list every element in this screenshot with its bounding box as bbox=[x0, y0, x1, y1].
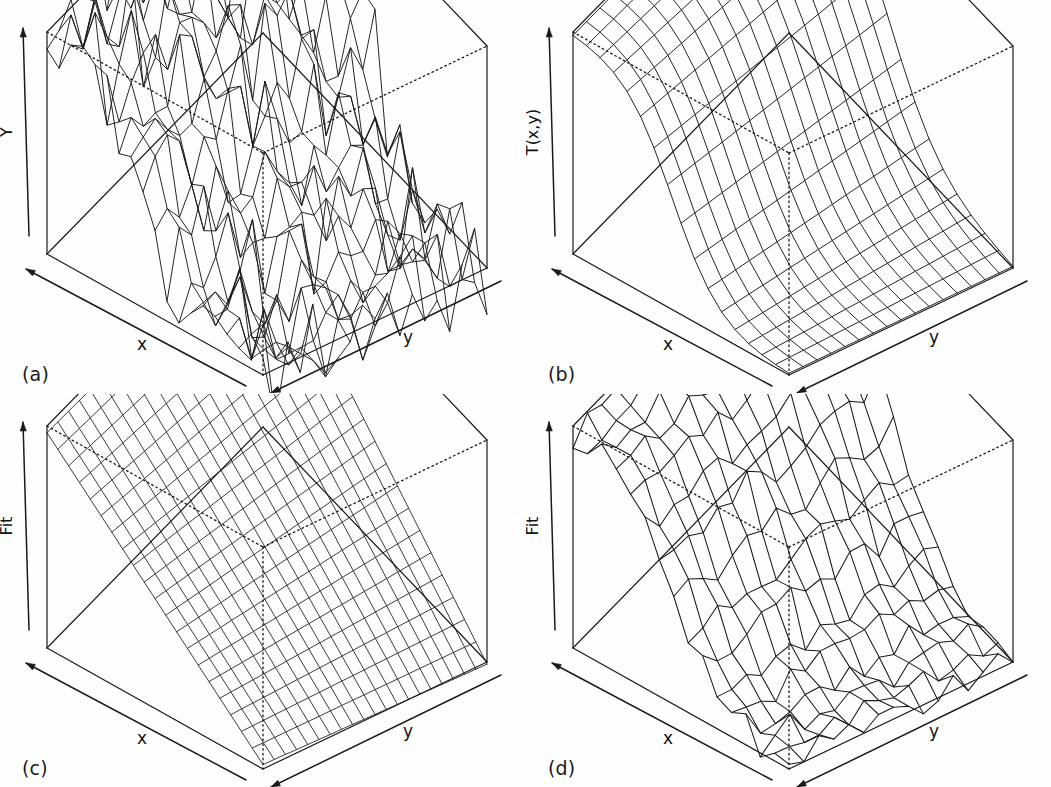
mesh-line-u bbox=[789, 394, 1013, 662]
box-edge-floor-front-right bbox=[789, 662, 1013, 769]
mesh-line-u bbox=[71, 0, 288, 359]
panel-b-tag: (b) bbox=[548, 363, 576, 385]
panel-a-tag: (a) bbox=[22, 363, 49, 385]
z-axis-label: Fit bbox=[0, 517, 16, 536]
z-axis-line bbox=[23, 28, 29, 236]
z-axis-arrowhead bbox=[20, 422, 26, 431]
mesh-line-v bbox=[789, 266, 1013, 373]
mesh-line-v bbox=[762, 233, 985, 354]
mesh-line-v bbox=[600, 0, 817, 58]
z-axis-line bbox=[23, 422, 29, 630]
box-edge-top-front-right-hidden bbox=[789, 46, 1013, 153]
mesh-line-v bbox=[220, 575, 442, 698]
y-axis-line bbox=[797, 281, 1027, 393]
x-axis-arrowhead bbox=[552, 663, 561, 670]
mesh-line-v bbox=[717, 547, 938, 697]
mesh-line-u bbox=[681, 0, 901, 320]
box-edge-floor-front-left bbox=[47, 254, 263, 375]
mesh-line-v bbox=[722, 169, 944, 312]
surface-mesh bbox=[47, 0, 487, 393]
mesh-line-v bbox=[645, 394, 864, 526]
x-axis-label: x bbox=[663, 334, 673, 354]
x-axis-line bbox=[26, 269, 246, 386]
z-axis-label: T(x,y) bbox=[526, 109, 542, 156]
panel-c-tag: (c) bbox=[22, 757, 48, 779]
mesh-line-u bbox=[227, 0, 450, 332]
z-axis-line bbox=[549, 422, 555, 630]
y-axis-arrowhead bbox=[797, 386, 806, 393]
y-axis-arrowhead bbox=[797, 780, 806, 787]
mesh-line-v bbox=[252, 642, 476, 748]
x-axis-label: x bbox=[137, 334, 147, 354]
box-edge-top-back-right bbox=[263, 0, 487, 46]
mesh-line-v bbox=[131, 0, 350, 157]
mesh-line-v bbox=[708, 139, 929, 289]
panel-a-plot: xyY bbox=[0, 0, 525, 393]
panel-d-tag: (d) bbox=[548, 757, 576, 779]
z-axis-label: Y bbox=[0, 127, 16, 138]
mesh-line-v bbox=[123, 394, 342, 549]
box-edge-top-back-right bbox=[263, 394, 487, 440]
box-edge-top-front-left-hidden bbox=[47, 32, 263, 153]
mesh-line-u bbox=[573, 444, 789, 764]
box-edge-top-front-left-hidden bbox=[573, 426, 789, 547]
mesh-line-v bbox=[654, 0, 873, 148]
x-axis-label: x bbox=[663, 728, 673, 748]
mesh-line-v bbox=[203, 188, 425, 324]
panel-b: xyT(x,y) (b) bbox=[526, 0, 1051, 393]
mesh-line-u bbox=[241, 394, 464, 674]
mesh-line-u bbox=[746, 394, 968, 691]
x-axis-arrowhead bbox=[26, 663, 35, 670]
mesh-line-u bbox=[760, 394, 983, 672]
box-edge-top-back-right bbox=[789, 394, 1013, 440]
mesh-line-v bbox=[155, 9, 375, 230]
z-axis-line bbox=[549, 28, 555, 236]
mesh-line-u bbox=[107, 0, 325, 373]
mesh-line-u bbox=[155, 394, 375, 714]
mesh-line-v bbox=[241, 620, 464, 732]
mesh-line-v bbox=[789, 654, 1013, 765]
mesh-line-v bbox=[602, 394, 819, 448]
mesh-line-u bbox=[123, 394, 342, 729]
mesh-line-v bbox=[187, 508, 408, 648]
mesh-line-v bbox=[191, 132, 412, 326]
panel-c-plot: xyFit bbox=[0, 394, 525, 787]
box-edge-floor-back-left bbox=[47, 427, 263, 648]
z-axis-label: Fit bbox=[526, 517, 542, 536]
mesh-line-u bbox=[708, 0, 929, 306]
figure-container: xyY (a) xyT(x,y) (b) xyFit (c) xyFit (d) bbox=[0, 0, 1051, 787]
mesh-line-u bbox=[602, 405, 819, 743]
mesh-line-u bbox=[659, 394, 878, 715]
box-edge-floor-front-left bbox=[573, 254, 789, 375]
x-axis-line bbox=[26, 663, 246, 780]
mesh-line-v bbox=[668, 14, 888, 185]
mesh-line-u bbox=[703, 394, 924, 714]
mesh-line-v bbox=[587, 0, 804, 46]
mesh-line-u bbox=[627, 0, 845, 346]
mesh-line-u bbox=[252, 394, 476, 669]
mesh-line-v bbox=[107, 0, 325, 122]
mesh-line-v bbox=[659, 394, 878, 560]
mesh-line-u bbox=[263, 0, 487, 314]
box-edge-top-back-left bbox=[47, 394, 263, 426]
mesh-line-u bbox=[231, 394, 454, 679]
box-edge-floor-back-left bbox=[573, 427, 789, 648]
box-edge-top-front-left-hidden bbox=[573, 32, 789, 153]
mesh-line-v bbox=[101, 394, 319, 516]
mesh-line-v bbox=[731, 587, 953, 713]
mesh-line-v bbox=[681, 59, 901, 223]
mesh-line-u bbox=[573, 36, 789, 374]
z-axis-arrowhead bbox=[546, 28, 552, 37]
box-edge-floor-back-right bbox=[263, 33, 487, 268]
mesh-line-v bbox=[95, 0, 313, 125]
panel-d-plot: xyFit bbox=[526, 394, 1051, 787]
y-axis-label: y bbox=[929, 721, 939, 741]
mesh-line-u bbox=[191, 0, 412, 295]
mesh-line-v bbox=[179, 117, 400, 323]
mesh-line-v bbox=[695, 102, 916, 259]
mesh-line-u bbox=[587, 22, 804, 367]
y-axis-line bbox=[271, 675, 501, 787]
mesh-line-u bbox=[735, 0, 957, 293]
panel-b-plot: xyT(x,y) bbox=[526, 0, 1051, 393]
mesh-line-v bbox=[209, 553, 431, 682]
